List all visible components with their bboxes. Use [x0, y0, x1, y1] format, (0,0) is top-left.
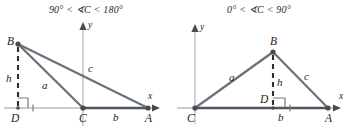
vertex-dot-D	[16, 106, 20, 110]
side-label-c: c	[304, 71, 309, 82]
vertex-dot-B	[270, 49, 275, 54]
side-label-a: a	[229, 72, 235, 83]
panel-obtuse-triangle: 90° < ∢C < 180°	[0, 0, 172, 140]
side-label-c: c	[88, 63, 93, 74]
y-axis-arrowhead	[79, 22, 86, 30]
vertex-dot-C	[80, 105, 85, 110]
y-axis-label: y	[88, 21, 92, 31]
vertex-dot-A	[325, 105, 330, 110]
vertex-label-C: C	[187, 113, 195, 125]
vertex-label-B: B	[7, 36, 14, 48]
vertex-dot-A	[145, 105, 150, 110]
side-label-a: a	[42, 80, 48, 91]
side-label-b: b	[278, 112, 284, 123]
panel-acute-triangle: 0° < ∢C < 90°	[173, 0, 345, 140]
acute-triangle-drawing	[173, 0, 345, 140]
y-axis-label: y	[200, 23, 204, 33]
side-label-h: h	[6, 73, 12, 84]
vertex-dot-C	[192, 105, 197, 110]
right-angle-mark-at-D	[273, 98, 285, 108]
x-axis-arrowhead	[333, 104, 341, 111]
x-axis-arrowhead	[152, 104, 160, 111]
vertex-label-C: C	[79, 113, 87, 125]
side-label-b: b	[113, 112, 119, 123]
x-axis-label: x	[148, 92, 152, 102]
vertex-label-D: D	[11, 113, 19, 125]
y-axis-arrowhead	[191, 24, 198, 32]
side-label-h: h	[277, 77, 283, 88]
vertex-dot-B	[15, 41, 20, 46]
vertex-label-A: A	[325, 113, 332, 125]
vertex-label-A: A	[145, 113, 152, 125]
right-angle-mark-at-D	[18, 98, 28, 108]
vertex-label-B: B	[270, 36, 277, 48]
x-axis-label: x	[339, 92, 343, 102]
figure-root: 90° < ∢C < 180°	[0, 0, 345, 140]
vertex-label-D: D	[260, 94, 268, 106]
vertex-dot-D	[271, 106, 275, 110]
